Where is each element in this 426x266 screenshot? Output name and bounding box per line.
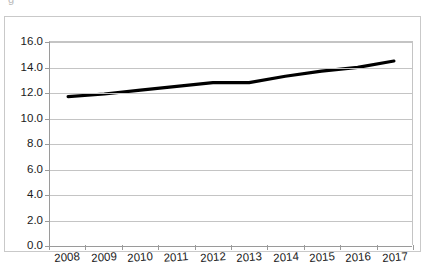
y-tick-mark [45, 42, 50, 43]
y-axis-label: 6.0 [27, 163, 43, 175]
y-axis-label: 2.0 [27, 214, 43, 226]
x-axis-label-2014: 2014 [272, 250, 298, 264]
x-axis-labels: 2008200920102011201220132014201520162017 [49, 249, 413, 266]
y-axis-label: 0.0 [27, 239, 43, 251]
data-line-series [68, 61, 394, 97]
y-axis-label: 12.0 [21, 86, 43, 98]
x-axis-label-2011: 2011 [164, 250, 190, 264]
gridline-12.0 [50, 93, 412, 94]
x-axis-label-2017: 2017 [382, 250, 408, 264]
y-tick-mark [45, 195, 50, 196]
y-axis-label: 14.0 [21, 61, 43, 73]
plot-area [49, 41, 413, 245]
gridline-10.0 [50, 119, 412, 120]
x-axis-label-2012: 2012 [200, 250, 226, 264]
y-axis-label: 8.0 [27, 137, 43, 149]
y-tick-mark [45, 93, 50, 94]
x-axis-label-2008: 2008 [54, 250, 80, 264]
x-axis-label-2013: 2013 [236, 250, 262, 264]
clipped-title-remnant: g [8, 0, 15, 5]
gridline-6.0 [50, 170, 412, 171]
y-tick-mark [45, 144, 50, 145]
y-axis-labels: 16.014.012.010.08.06.04.02.00.0 [5, 41, 43, 245]
x-tick-mark [413, 245, 414, 250]
y-tick-mark [45, 119, 50, 120]
y-tick-mark [45, 68, 50, 69]
y-tick-mark [45, 170, 50, 171]
y-tick-mark [45, 221, 50, 222]
x-axis-label-2010: 2010 [127, 250, 153, 264]
x-axis-label-2015: 2015 [309, 250, 335, 264]
y-axis-label: 16.0 [21, 35, 43, 47]
y-axis-label: 4.0 [27, 188, 43, 200]
gridline-16.0 [50, 42, 412, 43]
gridline-2.0 [50, 221, 412, 222]
gridline-4.0 [50, 195, 412, 196]
gridline-14.0 [50, 68, 412, 69]
x-axis-label-2009: 2009 [90, 250, 116, 264]
y-axis-label: 10.0 [21, 112, 43, 124]
chart-figure-frame: 16.014.012.010.08.06.04.02.00.0 20082009… [4, 16, 421, 252]
gridline-8.0 [50, 144, 412, 145]
x-axis-label-2016: 2016 [345, 250, 371, 264]
